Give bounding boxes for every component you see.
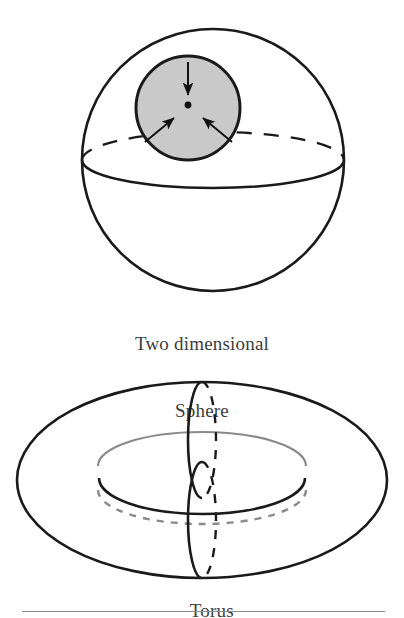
two-dimensional-sphere-figure	[0, 0, 404, 300]
center-point-dot	[185, 102, 192, 109]
torus-meridian-upper-left-solid	[188, 382, 202, 498]
torus-caption-line-1: Torus	[190, 600, 234, 618]
sphere-equator-front-solid	[82, 160, 344, 188]
torus-outer-outline	[17, 382, 387, 578]
torus-meridian-lower-right-dashed	[202, 462, 216, 578]
torus-hole-front-rim-solid	[99, 478, 305, 514]
sphere-caption-line-1: Two dimensional	[0, 333, 404, 355]
torus-caption: Torus	[0, 578, 404, 618]
torus-meridian-upper-right-dashed	[202, 382, 216, 498]
bottom-horizontal-rule	[22, 611, 385, 612]
torus-meridian-lower-left-solid	[188, 462, 202, 578]
torus-figure	[0, 372, 404, 592]
figure-root: Two dimensional Sphere	[0, 0, 404, 618]
torus-inner-bottom-dashed-gray	[98, 490, 306, 524]
